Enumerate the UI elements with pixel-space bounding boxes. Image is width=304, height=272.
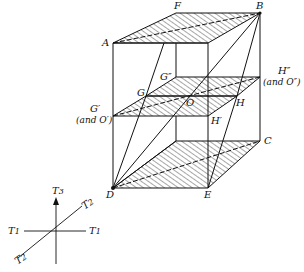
t3-arrow-icon	[53, 197, 59, 205]
box-diagram	[0, 0, 304, 272]
label-h: H	[236, 98, 245, 108]
label-h-double-prime-note: (and O″)	[263, 78, 301, 87]
label-d: D	[106, 190, 114, 200]
label-o: O	[186, 98, 194, 108]
label-g-prime-note: (and O′)	[76, 116, 112, 125]
label-h-prime: H′	[211, 116, 222, 126]
label-g: G	[137, 88, 145, 98]
label-b: B	[256, 1, 263, 11]
axis-label-t3: T3	[52, 186, 64, 196]
lower-middle-plane	[113, 96, 237, 116]
axis-label-t1-right: T1	[89, 226, 101, 236]
label-f: F	[174, 1, 181, 11]
label-a: A	[102, 38, 109, 48]
coordinate-axes	[18, 202, 86, 264]
label-g-prime: G′	[90, 104, 100, 114]
label-h-double-prime: H″	[278, 66, 290, 76]
label-g-double-prime: G″	[160, 72, 172, 82]
label-e: E	[204, 190, 211, 200]
label-c: C	[264, 136, 272, 146]
axis-label-t1-left: T1	[8, 226, 20, 236]
